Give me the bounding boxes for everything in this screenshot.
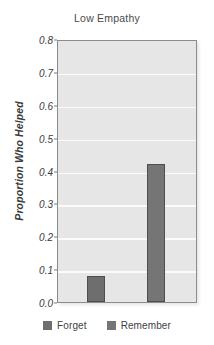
- y-tick-label: 0.2: [23, 232, 53, 243]
- chart-figure: Low Empathy Proportion Who Helped 0.80.7…: [0, 0, 214, 345]
- y-tick-label: 0.8: [23, 35, 53, 46]
- legend-entry-forget[interactable]: Forget: [43, 320, 87, 331]
- gridline: [58, 107, 196, 109]
- bar-remember: [147, 164, 165, 302]
- y-tick-label: 0.4: [23, 166, 53, 177]
- gridline: [58, 74, 196, 76]
- legend-swatch-icon: [107, 321, 116, 330]
- y-tick-label: 0.3: [23, 199, 53, 210]
- plot-area: [57, 40, 197, 303]
- gridline: [58, 173, 196, 175]
- legend-label: Forget: [57, 320, 87, 331]
- y-axis-tick-labels: 0.80.70.60.50.40.30.20.10.0: [20, 40, 53, 303]
- y-tick-label: 0.7: [23, 67, 53, 78]
- legend-entry-remember[interactable]: Remember: [107, 320, 171, 331]
- y-tick-label: 0.0: [23, 298, 53, 309]
- gridline: [58, 140, 196, 142]
- legend-label: Remember: [121, 320, 171, 331]
- y-tick-label: 0.1: [23, 265, 53, 276]
- y-tick-label: 0.6: [23, 100, 53, 111]
- gridline: [58, 205, 196, 207]
- bar-forget: [87, 276, 105, 302]
- gridline: [58, 271, 196, 273]
- chart-legend: ForgetRemember: [0, 320, 214, 331]
- legend-swatch-icon: [43, 321, 52, 330]
- gridline: [58, 238, 196, 240]
- chart-title: Low Empathy: [0, 12, 214, 24]
- y-tick-label: 0.5: [23, 133, 53, 144]
